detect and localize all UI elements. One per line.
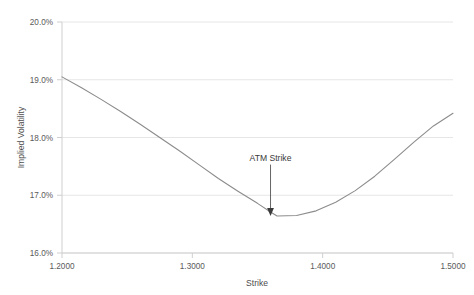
x-tick-label-1-2000: 1.2000 [49,262,74,271]
x-tick-label-1-4000: 1.4000 [310,262,335,271]
chart-canvas: 20.0% 19.0% 18.0% 17.0% 16.0% 1.2000 1.3… [0,0,474,295]
atm-strike-label: ATM Strike [250,153,292,163]
y-tick-label-18pct: 18.0% [30,134,53,143]
y-axis-title: Implied Volatility [16,106,26,168]
x-tick-label-1-5000: 1.5000 [440,262,465,271]
y-tick-label-19pct: 19.0% [30,76,53,85]
x-axis-title: Strike [246,278,268,288]
y-tick-label-16pct: 16.0% [30,249,53,258]
implied-volatility-smile-chart: 20.0% 19.0% 18.0% 17.0% 16.0% 1.2000 1.3… [0,0,474,295]
y-tick-label-20pct: 20.0% [30,18,53,27]
chart-background [0,0,474,295]
y-tick-label-17pct: 17.0% [30,191,53,200]
x-tick-label-1-3000: 1.3000 [180,262,205,271]
